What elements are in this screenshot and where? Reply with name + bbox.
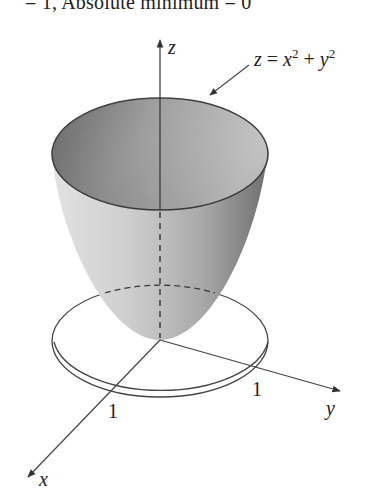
y-axis-label: y	[326, 397, 335, 420]
x-axis	[28, 340, 160, 477]
eq-exp2: 2	[329, 46, 336, 61]
eq-equals: =	[262, 48, 283, 70]
label-pointer-arrow	[210, 65, 249, 95]
eq-x: x	[283, 48, 292, 70]
y-axis	[160, 340, 340, 391]
eq-lhs: z	[254, 48, 262, 70]
x-tick-1: 1	[108, 400, 118, 423]
eq-y: y	[320, 48, 329, 70]
z-axis-label: z	[168, 36, 176, 59]
y-tick-1: 1	[252, 378, 262, 401]
eq-plus: +	[298, 48, 319, 70]
surface-equation-label: z = x2 + y2	[254, 48, 335, 71]
x-axis-label: x	[39, 468, 48, 491]
paraboloid-figure	[0, 0, 390, 498]
